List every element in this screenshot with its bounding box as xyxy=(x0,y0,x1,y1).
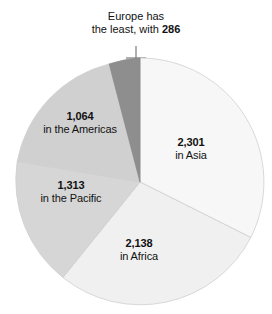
slice-caption-pacific: in the Pacific xyxy=(24,192,118,205)
slice-caption-americas: in the Americas xyxy=(25,123,135,136)
slice-value-asia: 2,301 xyxy=(160,136,222,149)
slice-label-asia: 2,301 in Asia xyxy=(160,136,222,162)
slice-value-africa: 2,138 xyxy=(101,237,177,250)
slice-caption-africa: in Africa xyxy=(101,250,177,263)
slice-value-pacific: 1,313 xyxy=(24,179,118,192)
slice-caption-asia: in Asia xyxy=(160,149,222,162)
pie-chart-svg xyxy=(0,0,272,314)
pie-chart-figure: Europe has the least, with 286 2,301 in … xyxy=(0,0,272,314)
slice-label-africa: 2,138 in Africa xyxy=(101,237,177,263)
slice-value-americas: 1,064 xyxy=(25,110,135,123)
leader-line xyxy=(126,46,146,58)
slice-label-americas: 1,064 in the Americas xyxy=(25,110,135,136)
slice-label-pacific: 1,313 in the Pacific xyxy=(24,179,118,205)
